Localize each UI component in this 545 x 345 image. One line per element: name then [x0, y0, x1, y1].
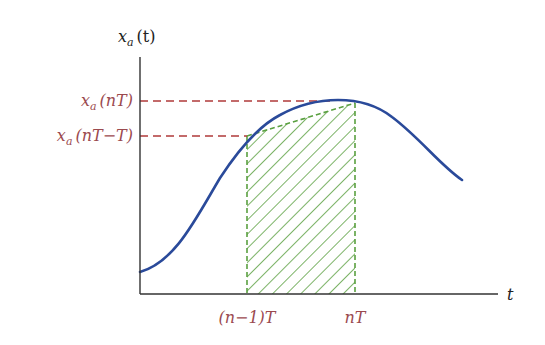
- trapezoid-area: [247, 100, 355, 294]
- marker-xa-nT: xa(nT): [81, 91, 133, 113]
- x-axis-label: t: [507, 285, 514, 304]
- marker-n-1-T: (n−1)T: [218, 308, 276, 327]
- trapezoid-diagram: xa(t) t xa(nT) xa(nT−T) (n−1)T nT: [0, 0, 545, 345]
- marker-nT: nT: [345, 308, 367, 327]
- marker-xa-nT-T: xa(nT−T): [57, 126, 133, 148]
- y-axis-label: xa(t): [118, 27, 156, 49]
